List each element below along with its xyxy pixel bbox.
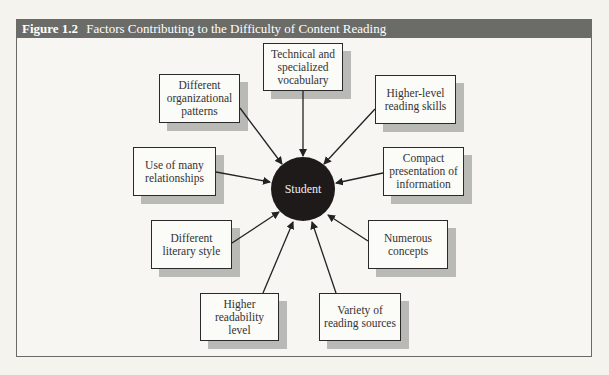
node-label: Compact presentation of information [387, 152, 460, 191]
node-label: Use of many relationships [137, 159, 212, 185]
node-compact-presentation: Compact presentation of information [383, 147, 464, 196]
node-label: Variety of reading sources [323, 304, 397, 330]
arrow-compact [336, 173, 383, 183]
center-node-student: Student [271, 157, 335, 221]
arrow-numerous [328, 215, 368, 241]
arrow-higher-level [324, 109, 375, 164]
node-higher-readability-level: Higher readability level [200, 293, 279, 341]
node-label: Technical and specialized vocabulary [267, 48, 339, 87]
node-label: Higher readability level [204, 298, 275, 337]
node-higher-level-reading-skills: Higher-level reading skills [375, 75, 456, 124]
center-label: Student [285, 182, 322, 197]
arrow-readability [263, 222, 293, 293]
node-label: Numerous concepts [372, 232, 444, 258]
arrow-organizational [240, 108, 282, 164]
node-numerous-concepts: Numerous concepts [368, 220, 448, 269]
arrow-relationships [216, 172, 270, 182]
node-variety-of-reading-sources: Variety of reading sources [319, 293, 401, 341]
node-different-literary-style: Different literary style [151, 220, 232, 269]
arrow-variety [312, 222, 336, 293]
node-label: Higher-level reading skills [379, 87, 452, 113]
node-use-of-many-relationships: Use of many relationships [133, 147, 216, 196]
arrow-literary [232, 212, 279, 243]
node-different-organizational-patterns: Different organizational patterns [159, 74, 240, 123]
node-technical-vocabulary: Technical and specialized vocabulary [263, 43, 343, 91]
node-label: Different organizational patterns [163, 79, 236, 118]
node-label: Different literary style [155, 232, 228, 258]
